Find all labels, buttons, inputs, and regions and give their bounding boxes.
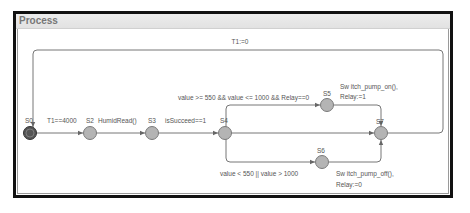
edge-s6-s7[interactable] <box>329 140 381 162</box>
node-s2[interactable]: S2 <box>84 117 97 140</box>
node-label-s0: S0 <box>25 117 33 124</box>
edge-s4-s5[interactable] <box>226 105 320 127</box>
edge-label-s5-s7-2: Relay:=1 <box>340 93 366 101</box>
node-label-s5: S5 <box>323 90 331 97</box>
node-s0[interactable]: S0 <box>24 117 37 140</box>
node-label-s3: S3 <box>148 117 156 124</box>
edge-label-s0-s2: T1==4000 <box>47 117 77 124</box>
edge-label-s5-s7-1: Sw itch_pump_on(), <box>340 83 398 91</box>
node-label-s6: S6 <box>317 147 325 154</box>
node-s7[interactable]: S7 <box>375 118 388 140</box>
edge-label-s4-s5: value >= 550 && value <= 1000 && Relay==… <box>178 94 310 102</box>
node-s6[interactable]: S6 <box>316 147 329 169</box>
edge-label-s6-s7-1: Sw itch_pump_off(), <box>336 170 394 178</box>
automaton-diagram: T1:=0 T1==4000 HumidRead() isSucceed==1 … <box>0 0 470 213</box>
edge-label-s2-s3: HumidRead() <box>98 117 137 125</box>
edge-s4-s6[interactable] <box>226 139 315 162</box>
node-label-s2: S2 <box>86 117 94 124</box>
node-s5[interactable]: S5 <box>321 90 334 112</box>
node-label-s4: S4 <box>220 117 228 124</box>
edge-label-s6-s7-2: Relay:=0 <box>336 181 362 189</box>
edge-label-reset: T1:=0 <box>232 38 249 45</box>
node-label-s7: S7 <box>376 118 384 125</box>
edge-s5-s7[interactable] <box>334 105 381 126</box>
node-s3[interactable]: S3 <box>146 117 159 140</box>
node-s4[interactable]: S4 <box>219 117 232 140</box>
edge-label-s4-s6: value < 550 || value > 1000 <box>220 170 299 178</box>
edge-label-s3-s4: isSucceed==1 <box>165 117 207 124</box>
